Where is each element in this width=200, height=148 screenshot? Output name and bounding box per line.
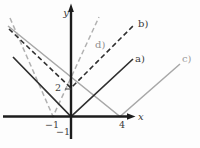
absolute-value-graphs-plot: xy2−14−1c)d)a)b) [0, 0, 200, 148]
series-b-label: b) [138, 18, 148, 29]
series-c-label: c) [182, 53, 192, 64]
tick-label-y2: 2 [55, 82, 61, 93]
x-axis-arrow-icon [127, 113, 136, 119]
series-a-label: a) [135, 53, 145, 64]
tick-label-y-neg1: −1 [56, 126, 70, 137]
series-d-label: d) [95, 39, 105, 50]
figure-container: xy2−14−1c)d)a)b) [0, 0, 200, 148]
y-axis-label: y [62, 7, 69, 18]
tick-label-x4: 4 [119, 119, 125, 130]
x-axis-label: x [138, 111, 144, 122]
